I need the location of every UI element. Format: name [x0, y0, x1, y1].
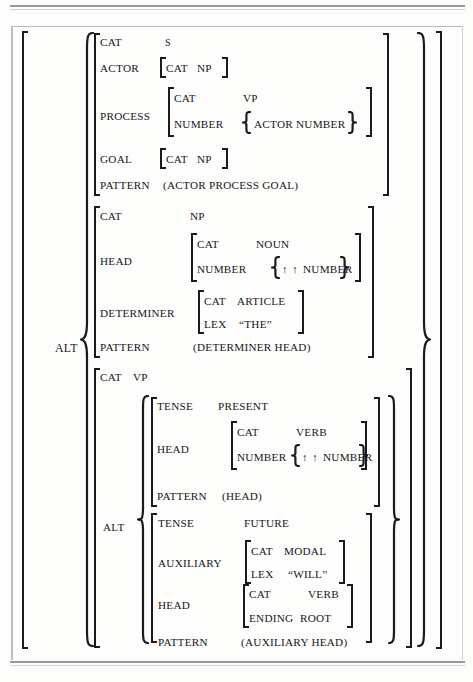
vp-present-tense-value: PRESENT [218, 401, 268, 412]
vp-future-pattern-value: (AUXILIARY HEAD) [241, 637, 347, 648]
np-head-bracket-right [353, 233, 361, 282]
vp-future-head-ending-key: ENDING [249, 613, 293, 624]
s-pattern-value: (ACTOR PROCESS GOAL) [163, 180, 298, 191]
np-head-number-arrows: ↑ ↑ [282, 264, 299, 275]
vp-alt-label: ALT [103, 522, 124, 533]
np-head-number-brace-left [271, 256, 280, 279]
s-process-key: PROCESS [100, 111, 150, 122]
vp-future-auxiliary-bracket-right [337, 540, 345, 584]
vp-present-bracket-right [372, 397, 380, 507]
np-head-key: HEAD [100, 256, 132, 267]
np-cat-key: CAT [100, 211, 122, 222]
s-process-bracket-right [364, 87, 372, 137]
vp-future-bracket-right [364, 513, 372, 643]
vp-present-tense-key: TENSE [157, 401, 193, 412]
s-cat-key: CAT [100, 37, 122, 48]
figure-border-right [462, 26, 463, 660]
vp-present-number-brace-right [359, 444, 368, 467]
vp-cat-value: VP [133, 372, 148, 383]
vp-future-head-cat-value: VERB [308, 589, 339, 600]
vp-future-head-cat-key: CAT [249, 589, 271, 600]
vp-present-head-cat-key: CAT [237, 427, 259, 438]
vp-future-auxiliary-key: AUXILIARY [158, 558, 222, 569]
s-actor-key: ACTOR [100, 63, 139, 74]
figure-border-left [11, 26, 13, 660]
np-pattern-value: (DETERMINER HEAD) [193, 342, 311, 353]
vp-present-head-key: HEAD [157, 444, 189, 455]
vp-present-head-number-arrows: ↑ ↑ [302, 452, 319, 463]
s-actor-bracket-right [220, 57, 228, 78]
vp-future-head-bracket-right [345, 584, 353, 628]
vp-future-auxiliary-lex-value: “WILL” [288, 569, 327, 580]
np-head-cat-key: CAT [197, 239, 219, 250]
vp-future-head-key: HEAD [158, 600, 190, 611]
outer-bracket-right [434, 31, 442, 649]
np-head-number-key: NUMBER [197, 264, 246, 275]
figure-page: ALT CAT S ACTOR CAT NP PROCESS CAT VP NU… [0, 0, 473, 682]
alt-s-bracket-right [381, 33, 389, 196]
s-goal-bracket-right [220, 148, 228, 169]
vp-present-head-number-key: NUMBER [237, 452, 286, 463]
s-actor-cat-key: CAT [166, 63, 188, 74]
np-determiner-cat-value: ARTICLE [237, 296, 285, 307]
np-determiner-lex-key: LEX [204, 319, 227, 330]
outer-alt-brace-right [417, 32, 431, 647]
s-process-number-key: NUMBER [174, 119, 223, 130]
s-cat-value: S [165, 38, 171, 48]
vp-future-auxiliary-cat-value: MODAL [284, 546, 326, 557]
vp-present-pattern-key: PATTERN [157, 491, 207, 502]
vp-future-auxiliary-cat-key: CAT [251, 546, 273, 557]
vp-alt-brace-right [388, 395, 400, 644]
s-process-cat-value: VP [243, 93, 258, 104]
np-determiner-bracket-right [296, 290, 304, 334]
vp-present-head-cat-value: VERB [296, 427, 327, 438]
np-determiner-cat-key: CAT [204, 296, 226, 307]
page-rule-bottom-hairline [10, 665, 465, 666]
vp-present-pattern-value: (HEAD) [222, 491, 262, 502]
page-rule-top [10, 5, 465, 7]
s-process-cat-key: CAT [174, 93, 196, 104]
alt-np-bracket-right [366, 206, 374, 358]
vp-future-head-ending-value: ROOT [300, 613, 331, 624]
s-actor-cat-value: NP [197, 63, 212, 74]
s-process-number-brace-right [348, 111, 357, 134]
np-determiner-lex-value: “THE” [239, 319, 272, 330]
s-pattern-key: PATTERN [100, 180, 150, 191]
s-process-number-value: ACTOR NUMBER [254, 119, 345, 130]
np-determiner-key: DETERMINER [100, 308, 175, 319]
page-rule-top-hairline [10, 9, 465, 10]
np-cat-value: NP [190, 211, 205, 222]
s-process-number-brace-left [242, 111, 251, 134]
alt-vp-bracket-right [404, 368, 412, 648]
vp-cat-key: CAT [100, 372, 122, 383]
vp-alt-brace-left [137, 395, 149, 644]
page-rule-bottom [10, 661, 465, 663]
np-head-cat-value: NOUN [256, 239, 289, 250]
outer-alt-brace-left [80, 32, 94, 647]
vp-future-tense-key: TENSE [158, 518, 194, 529]
s-goal-cat-value: NP [197, 154, 212, 165]
figure-border-top [13, 26, 462, 27]
np-pattern-key: PATTERN [100, 342, 150, 353]
vp-future-auxiliary-lex-key: LEX [251, 569, 274, 580]
s-goal-cat-key: CAT [166, 154, 188, 165]
vp-future-pattern-key: PATTERN [158, 637, 208, 648]
vp-future-tense-value: FUTURE [244, 518, 289, 529]
outer-alt-label: ALT [55, 343, 78, 355]
vp-present-number-brace-left [291, 444, 300, 467]
s-goal-key: GOAL [100, 154, 132, 165]
np-head-number-brace-right [340, 256, 349, 279]
